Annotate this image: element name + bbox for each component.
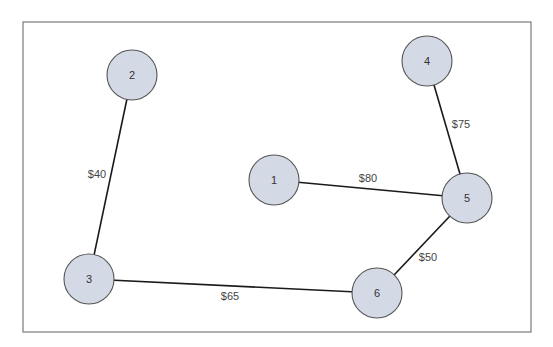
node-1: 1	[249, 155, 299, 205]
edge-cost-label: $75	[452, 118, 470, 130]
node-6: 6	[352, 268, 402, 318]
edge-cost-label: $40	[88, 168, 106, 180]
node-label: 2	[129, 69, 135, 81]
node-2: 2	[107, 50, 157, 100]
node-label: 6	[374, 287, 380, 299]
node-label: 1	[271, 174, 277, 186]
node-label: 3	[86, 273, 92, 285]
node-4: 4	[402, 36, 452, 86]
node-3: 3	[64, 254, 114, 304]
node-label: 5	[464, 192, 470, 204]
edge-cost-label: $65	[221, 290, 239, 302]
node-5: 5	[442, 173, 492, 223]
network-diagram: $40$75$80$50$65 123456	[0, 0, 553, 347]
edge-cost-label: $50	[419, 251, 437, 263]
edge-cost-label: $80	[359, 172, 377, 184]
node-label: 4	[424, 55, 430, 67]
